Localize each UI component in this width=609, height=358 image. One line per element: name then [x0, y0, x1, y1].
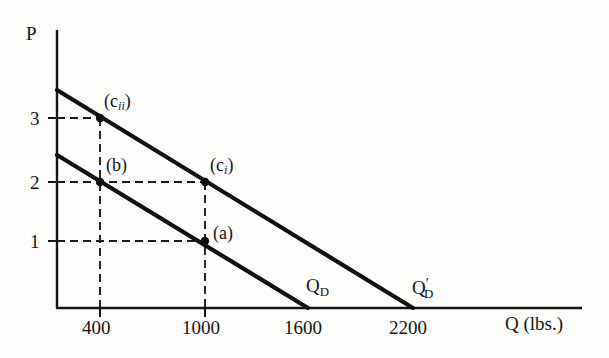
point-label-ci-open: (c	[210, 155, 224, 175]
point-label-cii: (cii)	[104, 92, 131, 113]
point-label-cii-open: (c	[104, 91, 118, 111]
x-tick-label-1600: 1600	[284, 318, 322, 337]
curve-label-qd: QD	[306, 276, 329, 299]
point-label-a: (a)	[213, 224, 233, 242]
point-label-b: (b)	[106, 156, 127, 174]
point-label-cii-close: )	[125, 91, 131, 111]
curve-label-qd-base: Q	[306, 275, 320, 296]
demand-curve-qd	[57, 155, 308, 308]
plot-area	[0, 0, 609, 358]
point-label-cii-subscript: ii	[118, 99, 125, 113]
point-a	[201, 237, 209, 245]
curve-label-qd-subscript: D	[320, 284, 329, 299]
x-tick-label-2200: 2200	[389, 318, 427, 337]
y-axis-label: P	[26, 24, 37, 43]
x-tick-label-400: 400	[82, 318, 111, 337]
y-tick-label-3: 3	[30, 109, 40, 128]
y-tick-label-1: 1	[30, 232, 40, 251]
point-ci	[201, 178, 209, 186]
point-b	[96, 178, 104, 186]
demand-curve-figure: P Q (lbs.) 1 2 3 400 1000 1600 2200 (cii…	[0, 0, 609, 358]
demand-curve-qd-prime	[57, 90, 413, 308]
curve-label-qd-prime: Q′D	[412, 276, 433, 301]
y-tick-label-2: 2	[30, 173, 40, 192]
point-label-ci-close: )	[227, 155, 233, 175]
x-axis-label: Q (lbs.)	[505, 314, 563, 333]
x-tick-label-1000: 1000	[182, 318, 220, 337]
point-label-ci: (ci)	[210, 156, 233, 177]
point-cii	[96, 114, 104, 122]
curve-label-qd-prime-subscript: D	[424, 286, 433, 301]
